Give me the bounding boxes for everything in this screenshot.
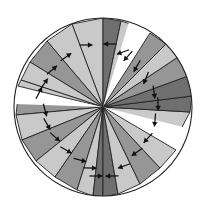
triangulated-disk-diagram [0, 0, 212, 216]
figure-container [0, 0, 212, 216]
